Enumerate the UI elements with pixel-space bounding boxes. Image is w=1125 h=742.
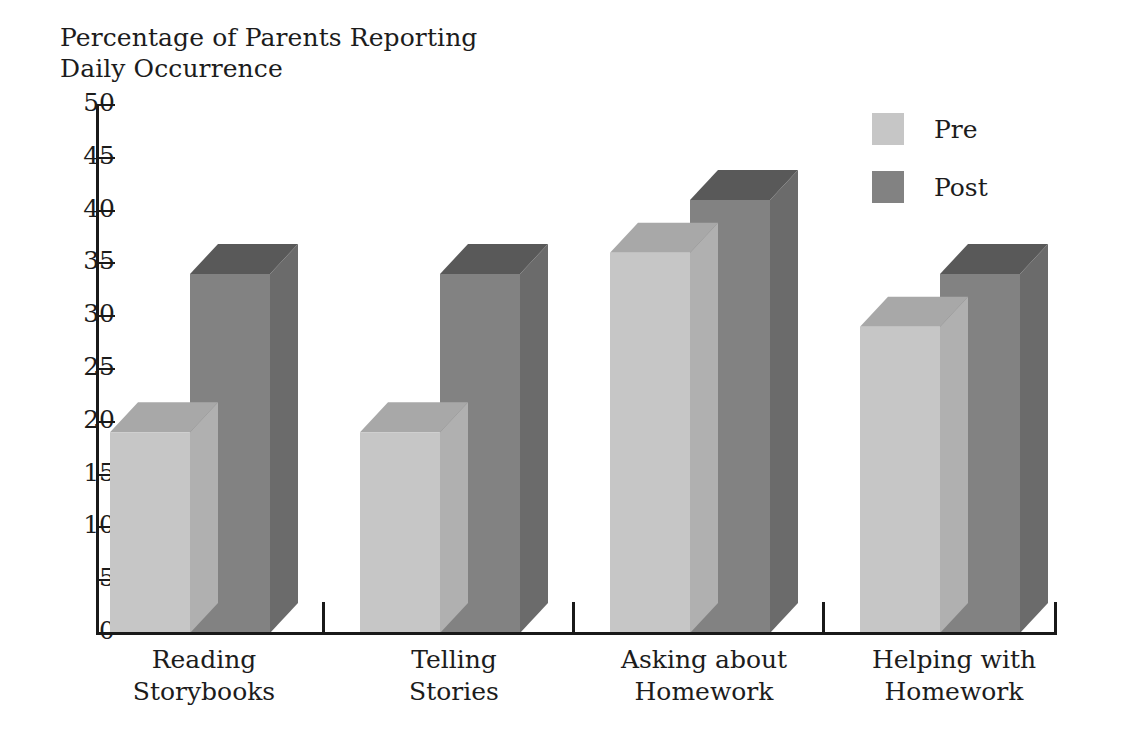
bar-side-face <box>270 244 298 633</box>
chart-legend: PrePost <box>872 100 1102 216</box>
bar-side-face <box>520 244 548 633</box>
x-axis-category-label: Helping with Homework <box>805 644 1103 708</box>
chart-container: Percentage of Parents Reporting Daily Oc… <box>0 0 1125 742</box>
bar-front-face <box>610 253 690 633</box>
x-axis-separator <box>822 602 825 633</box>
bar-side-face <box>690 223 718 633</box>
bar-side-face <box>770 170 798 633</box>
legend-swatch-icon <box>872 171 904 203</box>
bar-pre <box>110 402 218 633</box>
bar-side-face <box>1020 244 1048 633</box>
x-axis-separator <box>572 602 575 633</box>
bar-front-face <box>860 327 940 633</box>
bar-front-face <box>110 432 190 633</box>
bar-pre <box>610 223 718 633</box>
bar-side-face <box>190 402 218 633</box>
bar-front-face <box>360 432 440 633</box>
bar-pre <box>860 297 968 633</box>
bar-side-face <box>440 402 468 633</box>
legend-item-pre[interactable]: Pre <box>872 100 1102 158</box>
legend-label: Pre <box>934 117 978 142</box>
x-axis-line <box>96 632 1057 635</box>
x-axis-end-tick <box>1054 602 1057 635</box>
bar-side-face <box>940 297 968 633</box>
legend-swatch-icon <box>872 113 904 145</box>
x-axis-separator <box>322 602 325 633</box>
legend-item-post[interactable]: Post <box>872 158 1102 216</box>
bar-pre <box>360 402 468 633</box>
legend-label: Post <box>934 175 988 200</box>
